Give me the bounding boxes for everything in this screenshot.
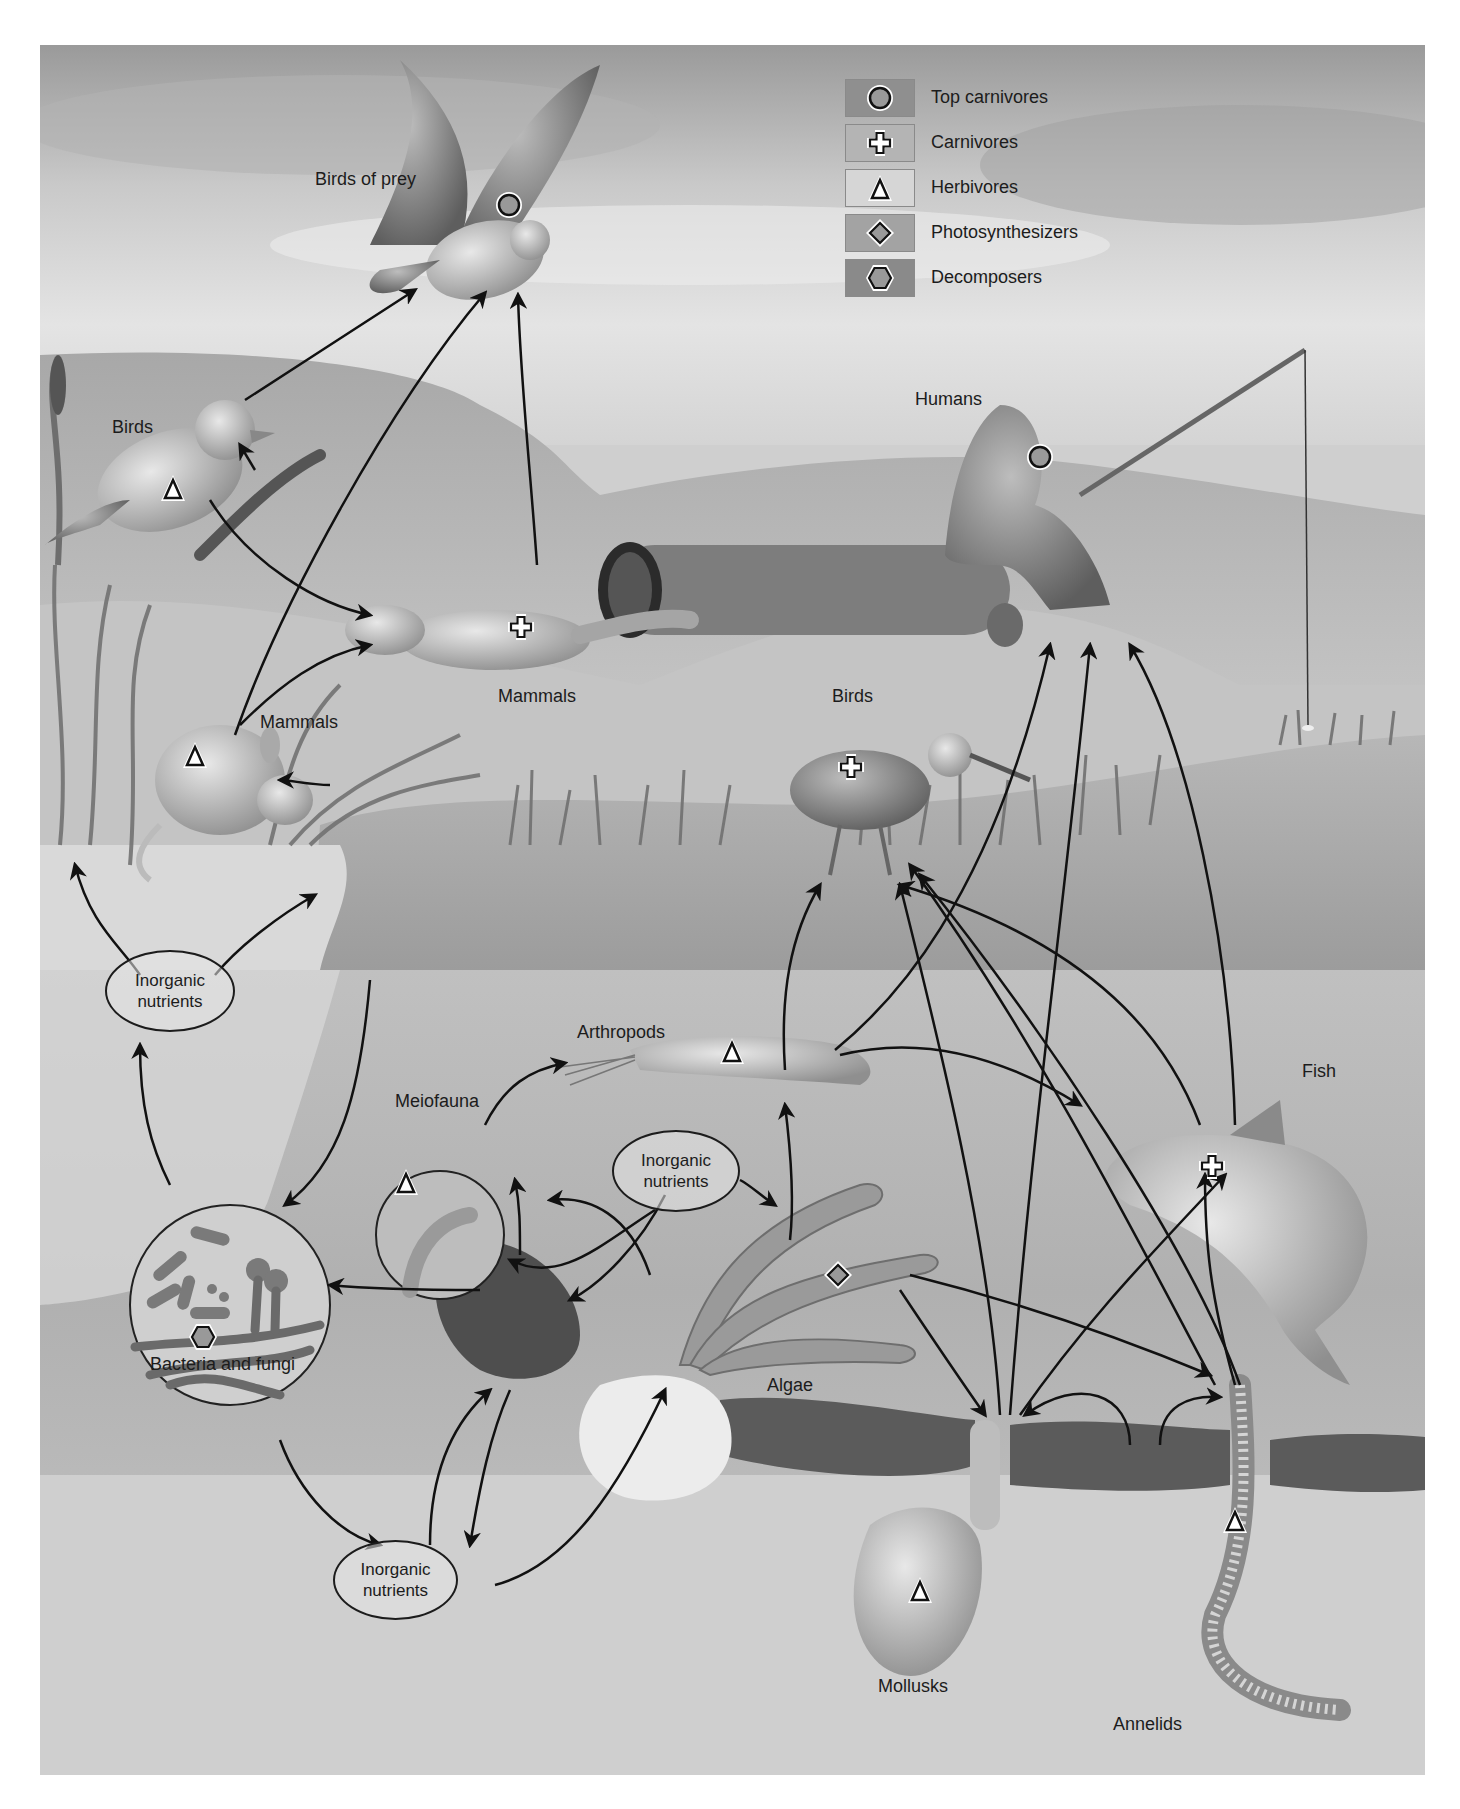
diamond-icon — [823, 1260, 853, 1290]
cross-icon — [506, 612, 536, 642]
legend-label: Photosynthesizers — [931, 222, 1078, 243]
legend-item-top-carnivores: Top carnivores — [845, 75, 1078, 120]
label-arthropods: Arthropods — [577, 1023, 665, 1043]
nutrient-label-line1: Inorganic — [361, 1559, 431, 1580]
circle-icon — [865, 83, 895, 113]
triangle-icon — [391, 1167, 421, 1197]
legend-item-carnivores: Carnivores — [845, 120, 1078, 165]
cross-icon — [836, 752, 866, 782]
legend-label: Carnivores — [931, 132, 1018, 153]
trophic-legend: Top carnivores Carnivores Herbivores Pho… — [845, 75, 1078, 300]
legend-item-decomposers: Decomposers — [845, 255, 1078, 300]
legend-label: Decomposers — [931, 267, 1042, 288]
label-annelids: Annelids — [1113, 1715, 1182, 1735]
triangle-icon — [1220, 1505, 1250, 1535]
food-web-illustration: Birds of prey Humans Birds Mammals Mamma… — [40, 45, 1425, 1775]
legend-swatch — [845, 259, 915, 297]
label-mammals-herbivore: Mammals — [260, 713, 338, 733]
inorganic-nutrients-node-middle: Inorganicnutrients — [612, 1130, 740, 1212]
legend-swatch — [845, 79, 915, 117]
inorganic-nutrients-node-left: Inorganicnutrients — [105, 950, 235, 1032]
circle-icon — [494, 190, 524, 220]
triangle-icon — [865, 173, 895, 203]
legend-item-herbivores: Herbivores — [845, 165, 1078, 210]
label-fish: Fish — [1302, 1062, 1336, 1082]
label-algae: Algae — [767, 1376, 813, 1396]
triangle-icon — [180, 740, 210, 770]
triangle-icon — [158, 473, 188, 503]
nutrient-label-line2: nutrients — [361, 1580, 431, 1601]
label-humans: Humans — [915, 390, 982, 410]
nutrient-label-line2: nutrients — [135, 991, 205, 1012]
legend-swatch — [845, 214, 915, 252]
legend-label: Top carnivores — [931, 87, 1048, 108]
legend-swatch — [845, 124, 915, 162]
legend-label: Herbivores — [931, 177, 1018, 198]
cross-icon — [865, 128, 895, 158]
circle-icon — [1025, 442, 1055, 472]
triangle-icon — [717, 1036, 747, 1066]
hexagon-icon — [865, 263, 895, 293]
label-mammals-carnivore: Mammals — [498, 687, 576, 707]
hexagon-icon — [188, 1322, 218, 1352]
cross-icon — [1197, 1151, 1227, 1181]
label-mollusks: Mollusks — [878, 1677, 948, 1697]
label-birds-herbivore: Birds — [112, 418, 153, 438]
nutrient-label-line2: nutrients — [641, 1171, 711, 1192]
inorganic-nutrients-node-bottom: Inorganicnutrients — [333, 1540, 458, 1620]
nutrient-label-line1: Inorganic — [641, 1150, 711, 1171]
scene-artwork — [40, 45, 1425, 1775]
diamond-icon — [865, 218, 895, 248]
legend-item-photosynthesizers: Photosynthesizers — [845, 210, 1078, 255]
label-birds-carnivore: Birds — [832, 687, 873, 707]
label-bacteria-and-fungi: Bacteria and fungi — [150, 1355, 295, 1375]
triangle-icon — [905, 1575, 935, 1605]
label-birds-of-prey: Birds of prey — [315, 170, 416, 190]
legend-swatch — [845, 169, 915, 207]
nutrient-label-line1: Inorganic — [135, 970, 205, 991]
label-meiofauna: Meiofauna — [395, 1092, 479, 1112]
